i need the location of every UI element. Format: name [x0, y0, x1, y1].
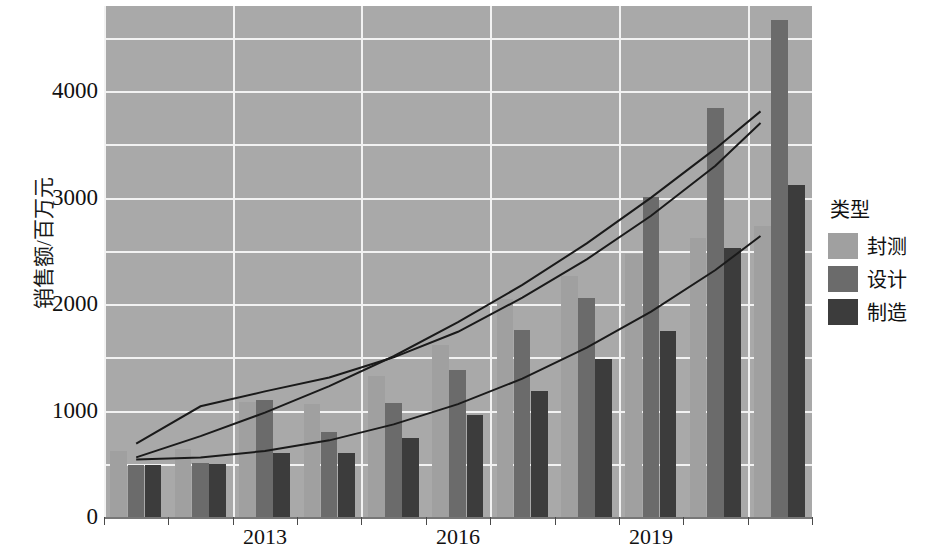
legend-label: 设计: [867, 264, 907, 293]
gridline-vertical: [104, 6, 106, 517]
gridline-horizontal: [104, 91, 812, 93]
x-tick-label: 2016: [436, 524, 480, 550]
bar: [771, 20, 788, 517]
x-tick-mark: [168, 517, 169, 525]
bar: [192, 463, 209, 517]
bar: [578, 298, 595, 517]
y-tick-label: 1000: [28, 398, 98, 424]
legend-item[interactable]: 制造: [828, 297, 941, 326]
bar: [690, 238, 707, 517]
y-axis-ticks: 01000200030004000: [30, 0, 98, 553]
bar: [385, 403, 402, 517]
x-axis-line: [104, 517, 812, 519]
bar: [368, 376, 385, 517]
plot-area: [104, 6, 812, 517]
legend-title: 类型: [830, 194, 941, 223]
bar: [256, 400, 273, 517]
x-tick-label: 2019: [629, 524, 673, 550]
bar: [514, 330, 531, 517]
bar: [561, 276, 578, 517]
bar: [304, 404, 321, 517]
bar: [531, 391, 548, 517]
x-tick-mark: [426, 517, 427, 525]
bar: [338, 453, 355, 517]
bar-chart: 销售额/百万元 01000200030004000 201320162019 类…: [0, 0, 941, 553]
gridline-vertical: [619, 6, 621, 517]
gridline-vertical: [233, 6, 235, 517]
gridline-vertical: [490, 6, 492, 517]
bar: [643, 197, 660, 517]
x-tick-label: 2013: [243, 524, 287, 550]
bar: [273, 453, 290, 517]
bar: [449, 370, 466, 517]
x-tick-mark: [812, 517, 813, 525]
legend: 类型 封测设计制造: [828, 194, 941, 330]
gridline-vertical: [748, 6, 750, 517]
bar: [145, 465, 162, 517]
x-tick-mark: [490, 517, 491, 525]
y-tick-label: 4000: [28, 78, 98, 104]
gridline-horizontal: [104, 198, 812, 200]
bar: [239, 402, 256, 517]
bar: [110, 451, 127, 517]
legend-item[interactable]: 设计: [828, 264, 941, 293]
bar: [595, 359, 612, 517]
legend-swatch: [828, 299, 858, 325]
bar: [209, 464, 226, 517]
x-tick-mark: [683, 517, 684, 525]
legend-swatch: [828, 233, 858, 259]
y-tick-label: 2000: [28, 291, 98, 317]
legend-label: 制造: [867, 297, 907, 326]
x-tick-mark: [748, 517, 749, 525]
legend-swatch: [828, 266, 858, 292]
bar: [497, 299, 514, 517]
bar: [432, 345, 449, 517]
legend-item[interactable]: 封测: [828, 231, 941, 260]
bar: [788, 185, 805, 517]
x-tick-mark: [361, 517, 362, 525]
gridline-vertical: [361, 6, 363, 517]
y-tick-label: 3000: [28, 185, 98, 211]
bar: [128, 465, 145, 517]
legend-label: 封测: [867, 231, 907, 260]
bar: [467, 415, 484, 517]
gridline-horizontal: [104, 144, 812, 146]
legend-items: 封测设计制造: [828, 231, 941, 326]
bar: [707, 108, 724, 517]
bar: [402, 438, 419, 517]
bar: [175, 449, 192, 517]
x-tick-mark: [233, 517, 234, 525]
bar: [321, 432, 338, 517]
x-tick-mark: [619, 517, 620, 525]
bar: [754, 226, 771, 517]
bar: [660, 331, 677, 517]
y-tick-label: 0: [28, 504, 98, 530]
x-tick-mark: [555, 517, 556, 525]
x-tick-mark: [104, 517, 105, 525]
bar: [724, 248, 741, 517]
gridline-horizontal: [104, 38, 812, 40]
x-tick-mark: [297, 517, 298, 525]
bar: [625, 254, 642, 517]
